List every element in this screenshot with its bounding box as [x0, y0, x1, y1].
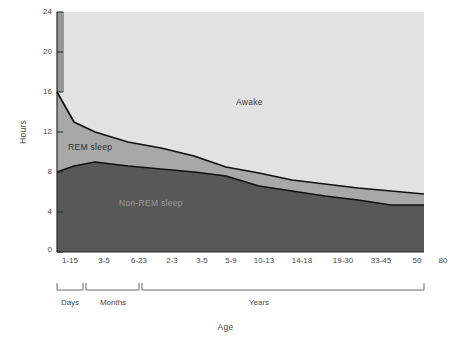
x-tick-label-1-15: 1-15	[62, 256, 78, 265]
y-tick-label-4: 4	[30, 207, 52, 216]
y-tick-label-12: 12	[30, 127, 52, 136]
x-tick-label-80: 80	[439, 256, 448, 265]
awake-band-label: Awake	[236, 97, 263, 107]
y-axis-title: Hours	[18, 84, 28, 144]
x-tick-label-33-45: 33-45	[371, 256, 391, 265]
x-tick-label-19-30: 19-30	[333, 256, 353, 265]
age-group-brackets	[57, 283, 424, 290]
x-axis-title: Age	[0, 322, 451, 332]
x-tick-label-14-18: 14-18	[292, 256, 312, 265]
y-tick-label-20: 20	[30, 47, 52, 56]
y-tick-label-0: 0	[30, 245, 52, 254]
sleep-across-lifespan-chart: 24 20 16 12 8 4 0 1-15 3-5 6-23 2-3 3-5 …	[0, 0, 451, 348]
rem-band-label: REM sleep	[68, 142, 112, 152]
x-tick-label-50: 50	[413, 256, 422, 265]
group-label-years: Years	[249, 298, 269, 307]
y-tick-label-24: 24	[30, 7, 52, 16]
x-tick-label-2-3: 2-3	[166, 256, 178, 265]
non-rem-band-label: Non-REM sleep	[119, 198, 183, 208]
y-tick-label-16: 16	[30, 87, 52, 96]
x-tick-label-3-5-m: 3-5	[98, 256, 110, 265]
chart-canvas	[0, 0, 451, 348]
group-label-days: Days	[61, 298, 79, 307]
x-tick-label-6-23: 6-23	[131, 256, 147, 265]
group-label-months: Months	[100, 298, 126, 307]
x-tick-label-3-5-y: 3-5	[196, 256, 208, 265]
x-tick-label-10-13: 10-13	[254, 256, 274, 265]
x-tick-label-5-9: 5-9	[225, 256, 237, 265]
y-tick-label-8: 8	[30, 167, 52, 176]
